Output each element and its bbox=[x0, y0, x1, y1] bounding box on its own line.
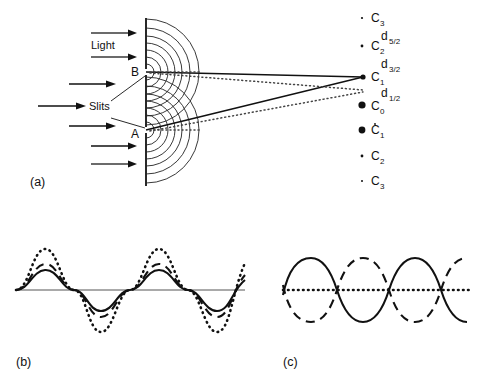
screen-point-label: C bbox=[371, 39, 380, 53]
screen-point-dot bbox=[360, 74, 365, 79]
slits-label: Slits bbox=[89, 100, 110, 112]
screen-point-dot bbox=[361, 180, 363, 182]
slit-leader-upper bbox=[111, 76, 145, 101]
panel-a: Light Slits bbox=[30, 11, 401, 191]
ray-a-to-c1 bbox=[146, 77, 363, 130]
light-arrow bbox=[91, 30, 137, 37]
screen-points: C 3 d 5/2 C 2 d 3/2 C 1 d 1/2 C 0 C 1 C … bbox=[358, 11, 400, 191]
screen-point-dot bbox=[361, 155, 364, 158]
path-difference-sub: 5/2 bbox=[389, 37, 401, 46]
light-arrow bbox=[69, 123, 116, 130]
screen-point-label: C bbox=[371, 174, 380, 188]
screen-point-dot bbox=[359, 127, 366, 134]
slit-lower-label: A bbox=[131, 127, 139, 141]
panel-c: (c) bbox=[283, 258, 470, 369]
light-label: Light bbox=[91, 39, 115, 51]
path-difference-sub: 3/2 bbox=[389, 65, 401, 74]
screen-point-dot bbox=[361, 45, 364, 48]
light-arrow bbox=[91, 54, 137, 61]
panel-a-caption: (a) bbox=[30, 175, 45, 189]
screen-point-label: C bbox=[371, 70, 380, 84]
screen-point-sub: 1 bbox=[380, 131, 385, 140]
screen-point-sub: 0 bbox=[380, 107, 385, 116]
panel-b: (b) bbox=[16, 249, 245, 369]
screen-point-dot bbox=[361, 17, 363, 19]
screen-point-sub: 2 bbox=[380, 157, 385, 166]
slit-leader-lower bbox=[111, 118, 145, 128]
screen-point-accent-dot bbox=[374, 123, 376, 125]
screen-point-dot bbox=[358, 101, 365, 108]
light-arrow bbox=[91, 143, 137, 150]
path-difference-label: d bbox=[381, 29, 388, 43]
incoming-light-arrows bbox=[38, 30, 137, 168]
screen-point-sub: 3 bbox=[380, 182, 385, 191]
screen-point-label: C bbox=[371, 99, 380, 113]
path-difference-label: d bbox=[381, 57, 388, 71]
screen-point-label: C bbox=[371, 149, 380, 163]
screen-point-sub: 2 bbox=[380, 47, 385, 56]
light-arrow bbox=[38, 103, 86, 110]
path-difference-label: d bbox=[381, 86, 388, 100]
screen-point-label: C bbox=[371, 11, 380, 25]
screen-point-sub: 3 bbox=[380, 19, 385, 28]
screen-point-label: C bbox=[371, 123, 380, 137]
path-difference-sub: 1/2 bbox=[389, 94, 401, 103]
slit-upper-label: B bbox=[131, 65, 139, 79]
panel-c-caption: (c) bbox=[283, 355, 298, 369]
panel-b-caption: (b) bbox=[16, 355, 31, 369]
young-double-slit-figure: Light Slits bbox=[0, 0, 488, 378]
light-arrow bbox=[69, 81, 116, 88]
light-arrow bbox=[91, 161, 137, 168]
